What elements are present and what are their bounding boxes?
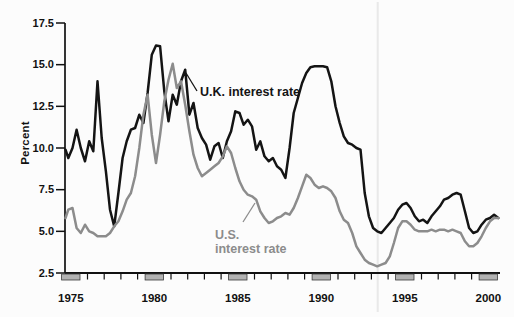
x-tick-label: 1995 xyxy=(392,292,418,304)
interest-rate-chart: 17.515.012.510.07.55.02.5197519801985199… xyxy=(0,0,514,317)
x-tick-label: 1980 xyxy=(142,292,168,304)
x-tick-label: 2000 xyxy=(476,292,502,304)
y-tick-label: 2.5 xyxy=(39,267,54,279)
us-series-label-line2: interest rate xyxy=(215,242,287,256)
uk-series-label: U.K. interest rate xyxy=(200,85,300,99)
x-year-block xyxy=(145,274,163,280)
x-year-block xyxy=(479,274,497,280)
y-tick-label: 12.5 xyxy=(33,100,54,112)
x-tick-label: 1975 xyxy=(58,292,84,304)
x-year-block xyxy=(396,274,414,280)
uk-series-line xyxy=(66,46,499,234)
x-year-block xyxy=(312,274,330,280)
x-year-block xyxy=(229,274,247,280)
x-tick-label: 1990 xyxy=(309,292,335,304)
scanned-interest-rate-figure: 17.515.012.510.07.55.02.5197519801985199… xyxy=(0,0,514,317)
x-year-block xyxy=(62,274,80,280)
y-tick-label: 17.5 xyxy=(33,17,54,29)
us-series-label: U.S. interest rate xyxy=(215,228,287,256)
us-label-leader-line xyxy=(243,203,255,222)
chart-canvas: 17.515.012.510.07.55.02.5197519801985199… xyxy=(0,0,514,317)
y-tick-label: 15.0 xyxy=(33,58,54,70)
percent-axis-label: Percent xyxy=(19,121,31,165)
y-tick-label: 7.5 xyxy=(39,183,54,195)
y-tick-label: 10.0 xyxy=(33,142,54,154)
y-tick-label: 5.0 xyxy=(39,225,54,237)
x-tick-label: 1985 xyxy=(225,292,251,304)
us-series-label-line1: U.S. xyxy=(215,228,287,242)
